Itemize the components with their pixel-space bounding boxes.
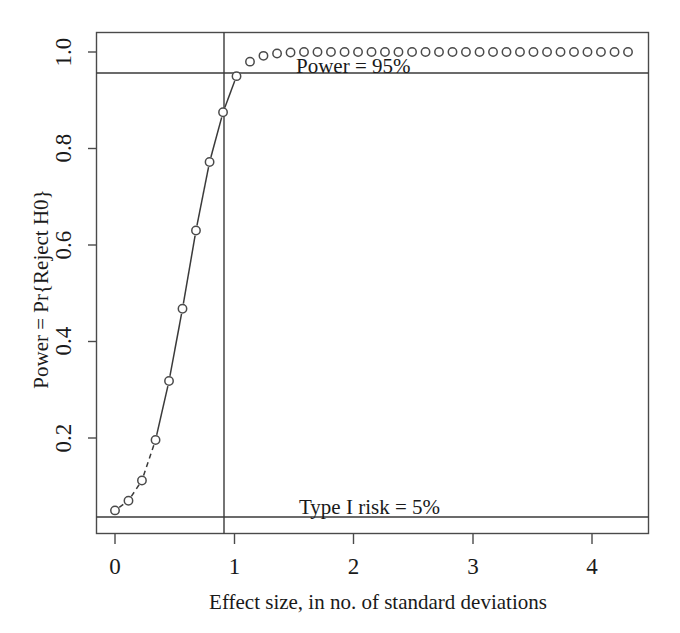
y-tick-label-1.0: 1.0	[52, 32, 76, 72]
x-tick-label-2: 2	[334, 555, 374, 578]
data-point-marker	[178, 304, 186, 312]
x-tick-label-0: 0	[95, 555, 135, 578]
data-point-marker	[489, 48, 497, 56]
plot-canvas	[0, 0, 680, 633]
data-point-marker	[448, 48, 456, 56]
y-tick-label-0.6: 0.6	[52, 225, 76, 265]
data-point-marker	[421, 48, 429, 56]
type-i-risk-annotation: Type I risk = 5%	[299, 497, 440, 518]
power-annotation: Power = 95%	[296, 56, 411, 77]
y-axis-title: Power = Pr{Reject H0}	[31, 139, 55, 439]
data-point-marker	[475, 48, 483, 56]
data-point-marker	[286, 48, 294, 56]
data-point-marker	[205, 158, 213, 166]
data-point-marker	[502, 48, 510, 56]
data-point-marker	[259, 52, 267, 60]
x-tick-label-1: 1	[215, 555, 255, 578]
y-tick-label-0.4: 0.4	[52, 321, 76, 361]
data-point-marker	[570, 48, 578, 56]
data-point-marker	[192, 226, 200, 234]
data-point-marker	[435, 48, 443, 56]
data-point-marker	[138, 476, 146, 484]
y-tick-label-0.2: 0.2	[52, 418, 76, 458]
figure-background	[0, 0, 680, 633]
data-point-marker	[556, 48, 564, 56]
data-point-marker	[597, 48, 605, 56]
data-point-marker	[165, 377, 173, 385]
data-point-marker	[610, 48, 618, 56]
data-point-marker	[529, 48, 537, 56]
data-point-marker	[624, 48, 632, 56]
data-point-marker	[543, 48, 551, 56]
data-point-marker	[219, 108, 227, 116]
data-point-marker	[246, 57, 254, 65]
y-tick-label-0.8: 0.8	[52, 128, 76, 168]
x-tick-label-3: 3	[453, 555, 493, 578]
data-point-marker	[111, 506, 119, 514]
data-point-marker	[516, 48, 524, 56]
data-point-marker	[462, 48, 470, 56]
x-tick-label-4: 4	[572, 555, 612, 578]
data-point-marker	[124, 497, 132, 505]
data-point-marker	[273, 49, 281, 57]
data-point-marker	[232, 72, 240, 80]
x-axis-title: Effect size, in no. of standard deviatio…	[148, 592, 608, 613]
data-point-marker	[151, 436, 159, 444]
data-point-marker	[583, 48, 591, 56]
power-curve-figure: 1.0 0.8 0.6 0.4 0.2 0 1 2 3 4 Effect siz…	[0, 0, 680, 633]
